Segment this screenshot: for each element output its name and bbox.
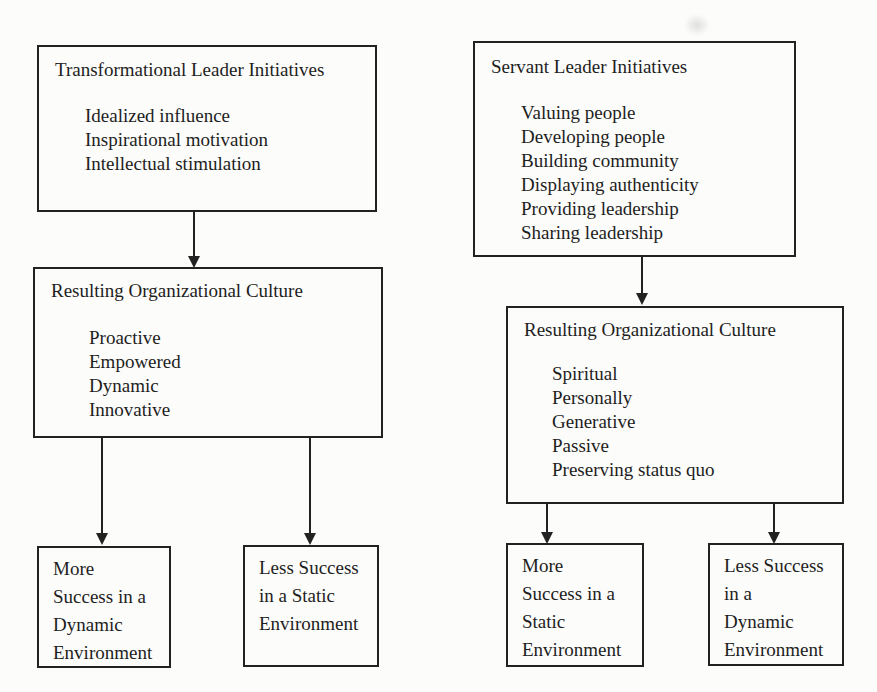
outcome-line: Dynamic <box>53 611 163 639</box>
less-success-static-box: Less Success in a Static Environment <box>243 545 379 667</box>
list-item: Idealized influence <box>85 104 375 128</box>
outcome-line: in a Static <box>259 582 371 610</box>
box-title: Resulting Organizational Culture <box>508 318 842 342</box>
list-item: Passive <box>552 434 842 458</box>
less-success-dynamic-box: Less Success in a Dynamic Environment <box>708 543 844 666</box>
outcome-line: Environment <box>724 636 836 664</box>
outcome-line: More <box>53 555 163 583</box>
list-item: Innovative <box>89 398 381 422</box>
list-item: Intellectual stimulation <box>85 152 375 176</box>
arrow-shaft <box>193 212 195 257</box>
outcome-line: Success in a <box>53 583 163 611</box>
transformational-initiatives-box: Transformational Leader Initiatives Idea… <box>37 45 377 212</box>
left-resulting-culture-box: Resulting Organizational Culture Proacti… <box>33 267 383 438</box>
more-success-dynamic-box: More Success in a Dynamic Environment <box>37 546 171 668</box>
arrow-down-culture-to-more-success-right <box>541 504 554 544</box>
list-item: Providing leadership <box>521 197 794 221</box>
arrow-down-transformational-to-culture <box>188 212 201 268</box>
more-success-static-box: More Success in a Static Environment <box>506 543 644 667</box>
arrow-shaft <box>101 438 103 534</box>
box-item-list: Spiritual Personally Generative Passive … <box>508 362 842 482</box>
list-item: Inspirational motivation <box>85 128 375 152</box>
arrowhead-icon <box>636 293 648 305</box>
list-item: Developing people <box>521 125 794 149</box>
outcome-line: Static <box>522 608 636 636</box>
list-item: Generative <box>552 410 842 434</box>
outcome-line: More <box>522 552 636 580</box>
list-item: Spiritual <box>552 362 842 386</box>
outcome-line: in a <box>724 580 836 608</box>
outcome-line: Environment <box>259 610 371 638</box>
outcome-line: Environment <box>53 639 163 667</box>
flowchart: Transformational Leader Initiatives Idea… <box>0 0 877 692</box>
arrow-down-culture-to-more-success-left <box>96 438 109 545</box>
arrow-shaft <box>773 504 775 533</box>
list-item: Building community <box>521 149 794 173</box>
list-item: Dynamic <box>89 374 381 398</box>
outcome-line: Success in a <box>522 580 636 608</box>
box-item-list: Idealized influence Inspirational motiva… <box>39 104 375 176</box>
arrow-shaft <box>309 438 311 534</box>
servant-initiatives-box: Servant Leader Initiatives Valuing peopl… <box>473 41 796 257</box>
arrowhead-icon <box>96 533 108 545</box>
arrow-down-culture-to-less-success-right <box>768 504 781 544</box>
box-item-list: Proactive Empowered Dynamic Innovative <box>35 326 381 422</box>
outcome-line: Less Success <box>724 552 836 580</box>
list-item: Valuing people <box>521 101 794 125</box>
list-item: Proactive <box>89 326 381 350</box>
arrowhead-icon <box>304 533 316 545</box>
box-item-list: Valuing people Developing people Buildin… <box>475 101 794 245</box>
list-item: Personally <box>552 386 842 410</box>
arrow-shaft <box>546 504 548 533</box>
list-item: Empowered <box>89 350 381 374</box>
box-title: Resulting Organizational Culture <box>35 279 381 303</box>
arrow-down-servant-to-culture <box>636 257 649 305</box>
scan-smudge-artifact <box>684 14 710 36</box>
box-title: Transformational Leader Initiatives <box>39 58 375 82</box>
list-item: Displaying authenticity <box>521 173 794 197</box>
right-resulting-culture-box: Resulting Organizational Culture Spiritu… <box>506 306 844 504</box>
arrow-shaft <box>641 257 643 294</box>
box-title: Servant Leader Initiatives <box>475 55 794 79</box>
outcome-line: Less Success <box>259 554 371 582</box>
list-item: Preserving status quo <box>552 458 842 482</box>
arrow-down-culture-to-less-success-left <box>304 438 317 545</box>
outcome-line: Environment <box>522 636 636 664</box>
outcome-line: Dynamic <box>724 608 836 636</box>
list-item: Sharing leadership <box>521 221 794 245</box>
